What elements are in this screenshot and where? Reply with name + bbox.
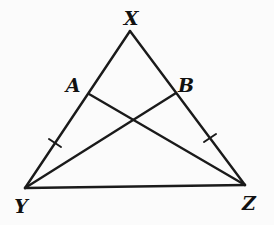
- point-label-a: A: [64, 74, 81, 96]
- triangle-diagram: X Y Z A B: [0, 0, 274, 225]
- segment-xz: [130, 31, 245, 185]
- congruence-tick-ay: [49, 139, 61, 147]
- segment-by: [25, 93, 176, 188]
- vertex-label-y: Y: [14, 195, 30, 217]
- point-label-b: B: [177, 74, 194, 96]
- segment-az: [89, 94, 245, 185]
- vertex-label-x: X: [123, 7, 140, 29]
- congruence-tick-bz: [204, 134, 216, 142]
- segment-yz: [25, 185, 245, 188]
- vertex-label-z: Z: [241, 192, 257, 214]
